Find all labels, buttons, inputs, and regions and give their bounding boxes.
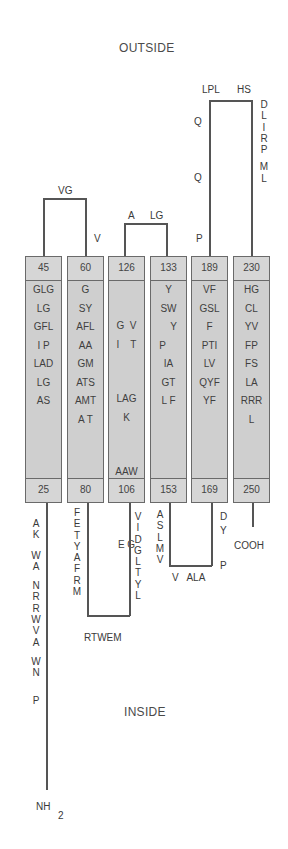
inside-label: INSIDE	[124, 705, 166, 719]
loop-2-3-right-column: VI DG LT YL	[133, 511, 143, 601]
loop-4-5-left-column: AS LM V	[155, 509, 165, 565]
loop-2-3-left-column: FE TY AF RM	[72, 507, 82, 597]
helix-tm4-top-number: 133	[151, 257, 186, 281]
helix-tm2-top-number: 60	[68, 257, 103, 281]
loop-3-4-right	[166, 223, 168, 256]
loop-5-6-right-column: D L I R P M L	[259, 99, 269, 184]
helix-tm6-bottom-number: 250	[234, 478, 269, 502]
helix-tm5-top-number: 189	[192, 257, 227, 281]
loop-2-3-right	[129, 503, 131, 616]
loop-1-2-residue-v: V	[94, 234, 101, 244]
loop-4-5-bottom-residues: V ALA	[172, 573, 205, 583]
outside-label: OUTSIDE	[119, 41, 174, 55]
n-terminus-subscript: 2	[58, 811, 64, 821]
c-terminus-label: COOH	[234, 541, 264, 551]
loop-5-6-residue-p: P	[196, 234, 203, 244]
loop-1-2-left	[43, 198, 45, 256]
loop-4-5-bottom	[169, 565, 212, 567]
n-terminus-label: NH	[36, 802, 50, 812]
helix-tm6: 230 HGCL YVFP FSLA RRRL 250	[233, 256, 270, 503]
helix-tm5-residues: VFGSL FPTI LVQYF YF	[192, 281, 227, 429]
loop-5-6-residue-q1: Q	[194, 117, 202, 127]
loop-2-3-bottom	[87, 615, 130, 617]
helix-tm3: 126 G VI T LAGK AAWW E G 106	[108, 256, 145, 503]
loop-4-5-residue-y: Y	[220, 526, 227, 536]
helix-tm4: 133 YSW YP IAGT L F 153	[150, 256, 187, 503]
helix-tm4-residues: YSW YP IAGT L F	[151, 281, 186, 429]
helix-tm1: 45 GLGLG GFLI P LADLG AS 25	[25, 256, 62, 503]
loop-5-6-residue-q2: Q	[194, 173, 202, 183]
helix-tm2-residues: GSY AFLAA GMATS AMTA T	[68, 281, 103, 429]
helix-tm1-top-number: 45	[26, 257, 61, 281]
helix-tm3-bottom-number: 106	[109, 478, 144, 502]
loop-5-6-residues-hs: HS	[237, 85, 251, 95]
loop-1-2-right	[85, 198, 87, 256]
helix-tm5: 189 VFGSL FPTI LVQYF YF 169	[191, 256, 228, 503]
loop-5-6-right	[251, 100, 253, 256]
helix-tm4-bottom-number: 153	[151, 478, 186, 502]
n-tail-line	[46, 503, 48, 790]
helix-tm6-residues: HGCL YVFP FSLA RRRL	[234, 281, 269, 429]
loop-4-5-right	[211, 503, 213, 566]
loop-2-3-bottom-residues: RTWEM	[84, 633, 122, 643]
helix-tm2-bottom-number: 80	[68, 478, 103, 502]
helix-tm6-top-number: 230	[234, 257, 269, 281]
loop-5-6-top	[209, 100, 252, 102]
helix-tm2: 60 GSY AFLAA GMATS AMTA T 80	[67, 256, 104, 503]
loop-5-6-residues-lpl: LPL	[202, 85, 220, 95]
c-tail-line	[252, 503, 254, 527]
loop-4-5-left	[169, 503, 171, 566]
loop-1-2-top	[43, 198, 86, 200]
n-tail-residues: A K W A N R R W V A W N P	[31, 518, 41, 706]
loop-3-4-residues-lg: LG	[150, 211, 163, 221]
loop-4-5-residue-d: D	[220, 512, 227, 522]
loop-1-2-residues: VG	[58, 186, 72, 196]
loop-3-4-left	[124, 223, 126, 256]
helix-tm1-bottom-number: 25	[26, 478, 61, 502]
helix-tm3-top-number: 126	[109, 257, 144, 281]
helix-tm1-residues: GLGLG GFLI P LADLG AS	[26, 281, 61, 429]
loop-4-5-residue-p: P	[220, 561, 227, 571]
helix-tm5-bottom-number: 169	[192, 478, 227, 502]
loop-3-4-top	[124, 223, 167, 225]
loop-5-6-left	[209, 100, 211, 256]
loop-2-3-left	[87, 503, 89, 616]
loop-3-4-residue-a: A	[128, 211, 135, 221]
